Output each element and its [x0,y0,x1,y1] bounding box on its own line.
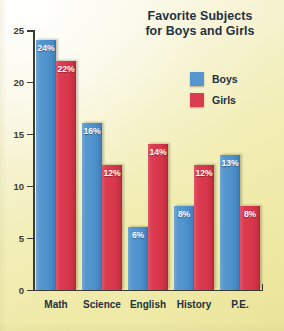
y-axis-tick-label: 15 [13,128,24,139]
bar-boys-history: 8% [174,206,194,289]
bar-girls-english: 14% [148,144,168,289]
bar-group: 6%14%English [125,30,171,290]
bar-boys-math: 24% [36,40,56,289]
bar-value-label: 13% [220,158,240,168]
bar-value-label: 22% [56,64,76,74]
bar-girls-math: 22% [56,61,76,289]
bar-group: 16%12%Science [79,30,125,290]
y-axis-tick-label: 5 [19,232,24,243]
bar-girls-science: 12% [102,165,122,290]
y-axis-tick-label: 25 [13,25,24,36]
bar-value-label: 14% [148,147,168,157]
bar-girls-pe: 8% [240,206,260,289]
bar-value-label: 8% [240,209,260,219]
y-axis-tick-label: 20 [13,76,24,87]
chart-title-line-1: Favorite Subjects [120,9,280,24]
bar-value-label: 24% [36,43,56,53]
bar-value-label: 12% [102,168,122,178]
y-axis-tick-label: 0 [19,284,24,295]
x-axis-category-label: History [177,299,211,310]
bar-value-label: 8% [174,209,194,219]
bar-value-label: 16% [82,126,102,136]
x-axis-category-label: P.E. [231,299,249,310]
bar-boys-english: 6% [128,227,148,289]
x-axis-category-label: English [130,299,166,310]
y-axis-tick-label: 10 [13,180,24,191]
x-axis-line [33,290,263,292]
plot-area: 0510152025 24%22%Math16%12%Science6%14%E… [33,30,263,291]
y-axis-tick [27,290,33,292]
bar-groups: 24%22%Math16%12%Science6%14%English8%12%… [33,30,263,290]
chart-page: Favorite Subjects for Boys and Girls Boy… [0,0,284,331]
bar-value-label: 12% [194,168,214,178]
bar-boys-pe: 13% [220,155,240,290]
bar-girls-history: 12% [194,165,214,290]
bar-value-label: 6% [128,230,148,240]
bar-group: 13%8%P.E. [217,30,263,290]
x-axis-category-label: Science [83,299,121,310]
x-axis-category-label: Math [44,299,67,310]
bar-group: 24%22%Math [33,30,79,290]
bar-boys-science: 16% [82,123,102,289]
bar-group: 8%12%History [171,30,217,290]
